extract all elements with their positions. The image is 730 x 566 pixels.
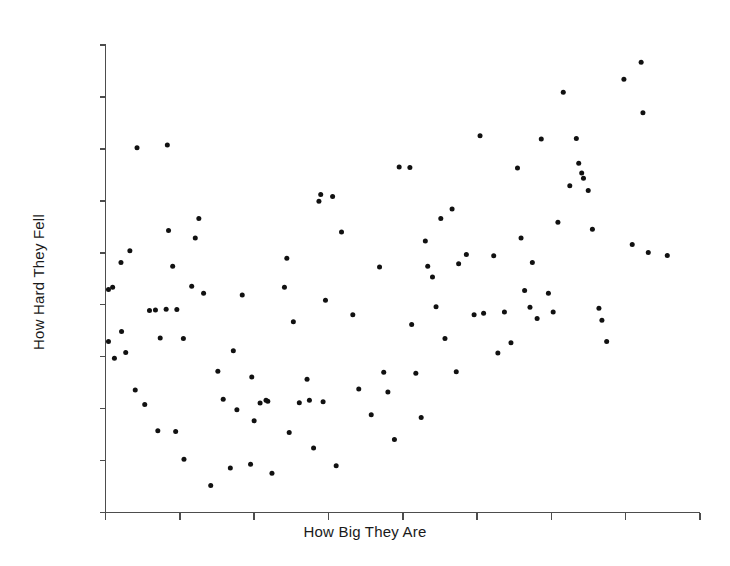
data-point xyxy=(409,322,414,327)
data-point xyxy=(339,230,344,235)
data-point xyxy=(576,161,581,166)
data-point xyxy=(305,377,310,382)
data-point xyxy=(621,77,626,82)
data-point xyxy=(604,339,609,344)
data-point xyxy=(665,253,670,258)
data-point xyxy=(392,437,397,442)
data-point xyxy=(201,291,206,296)
data-point xyxy=(495,351,500,356)
data-point xyxy=(287,430,292,435)
data-point xyxy=(522,288,527,293)
data-point xyxy=(599,318,604,323)
data-point xyxy=(155,428,160,433)
y-axis-label: How Hard They Fell xyxy=(30,182,47,382)
data-point xyxy=(555,220,560,225)
data-point xyxy=(282,285,287,290)
data-point xyxy=(307,398,312,403)
data-point xyxy=(334,463,339,468)
data-point xyxy=(265,399,270,404)
data-point xyxy=(442,336,447,341)
data-point xyxy=(407,165,412,170)
data-point xyxy=(481,311,486,316)
data-point xyxy=(133,388,138,393)
data-point xyxy=(142,402,147,407)
data-point xyxy=(430,274,435,279)
data-point xyxy=(181,457,186,462)
data-point xyxy=(590,227,595,232)
data-point xyxy=(110,285,115,290)
data-point xyxy=(381,370,386,375)
data-point xyxy=(174,307,179,312)
data-point xyxy=(579,171,584,176)
data-point xyxy=(434,304,439,309)
axes-group xyxy=(105,45,700,513)
data-point xyxy=(193,236,198,241)
data-point xyxy=(323,298,328,303)
data-point xyxy=(248,462,253,467)
data-point xyxy=(567,183,572,188)
data-point xyxy=(586,188,591,193)
data-point xyxy=(311,445,316,450)
data-point xyxy=(170,264,175,269)
data-point xyxy=(454,369,459,374)
data-point xyxy=(249,374,254,379)
data-point xyxy=(269,471,274,476)
data-point xyxy=(639,60,644,65)
data-point xyxy=(450,207,455,212)
data-point xyxy=(221,397,226,402)
data-point xyxy=(258,401,263,406)
data-point xyxy=(234,407,239,412)
data-point xyxy=(491,253,496,258)
data-point xyxy=(297,400,302,405)
data-point xyxy=(215,369,220,374)
plot-canvas xyxy=(0,0,730,566)
data-point xyxy=(166,228,171,233)
data-point xyxy=(231,348,236,353)
data-point xyxy=(165,143,170,148)
data-point xyxy=(423,238,428,243)
data-point xyxy=(189,284,194,289)
data-point xyxy=(321,399,326,404)
data-point xyxy=(508,340,513,345)
data-point xyxy=(438,216,443,221)
data-point xyxy=(369,412,374,417)
data-point xyxy=(646,250,651,255)
data-point xyxy=(535,316,540,321)
data-point xyxy=(419,415,424,420)
data-point xyxy=(519,236,524,241)
data-point xyxy=(153,308,158,313)
y-axis-label-container: How Hard They Fell xyxy=(0,0,60,566)
data-point xyxy=(252,418,257,423)
data-point xyxy=(291,319,296,324)
data-point xyxy=(472,312,477,317)
data-point xyxy=(118,260,123,265)
data-point xyxy=(596,306,601,311)
data-point xyxy=(158,336,163,341)
data-point xyxy=(397,165,402,170)
data-point xyxy=(173,429,178,434)
data-point xyxy=(530,260,535,265)
data-point xyxy=(208,483,213,488)
data-point xyxy=(425,264,430,269)
data-point xyxy=(164,307,169,312)
data-point xyxy=(240,293,245,298)
data-point xyxy=(284,256,289,261)
y-axis-ticks xyxy=(100,45,106,513)
data-point xyxy=(551,309,556,314)
data-point xyxy=(640,110,645,115)
data-point xyxy=(106,339,111,344)
data-point xyxy=(147,308,152,313)
data-point xyxy=(119,329,124,334)
data-point xyxy=(330,194,335,199)
data-point xyxy=(112,356,117,361)
data-point xyxy=(502,309,507,314)
data-point xyxy=(350,312,355,317)
x-axis-ticks xyxy=(106,513,701,520)
data-point xyxy=(413,371,418,376)
data-point xyxy=(316,199,321,204)
data-point xyxy=(515,165,520,170)
data-point xyxy=(630,242,635,247)
data-point xyxy=(581,176,586,181)
data-point xyxy=(228,466,233,471)
data-point xyxy=(135,145,140,150)
